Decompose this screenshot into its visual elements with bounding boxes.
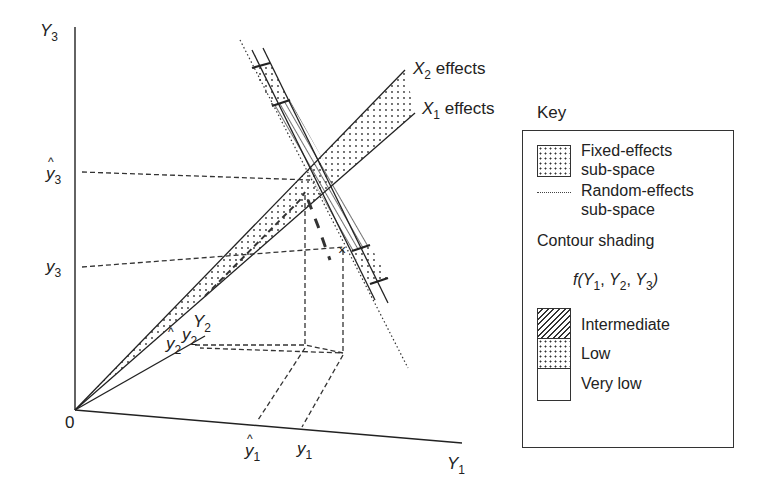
- y2-axis-label: Y2: [193, 313, 211, 334]
- fixed-effects-label: Fixed-effectssub-space: [581, 141, 672, 179]
- y1-observed-label: y1: [297, 440, 312, 461]
- random-effects-line-swatch: [537, 192, 571, 193]
- fixed-effects-swatch: [537, 145, 571, 177]
- y3-axis-label: Y3: [40, 22, 58, 43]
- low-swatch: [537, 338, 571, 370]
- y1-hat-label: y1: [245, 442, 260, 463]
- y1-axis-label: Y1: [447, 455, 465, 476]
- very-low-swatch: [537, 368, 571, 401]
- legend-box: Fixed-effectssub-space Random-effectssub…: [522, 130, 734, 448]
- y2-hat-label: y2: [166, 335, 181, 356]
- y3-observed-label: y3: [46, 258, 61, 279]
- y1-axis: [75, 410, 462, 443]
- density-function-label: f(Y1, Y2, Y3): [573, 270, 658, 296]
- x2-effects-label: X2 effects: [413, 60, 486, 81]
- key-title: Key: [537, 103, 566, 123]
- projection-lines: [82, 172, 345, 427]
- y3-hat-label: y3: [46, 165, 61, 186]
- low-label: Low: [581, 344, 610, 363]
- origin-label: 0: [65, 414, 74, 431]
- very-low-label: Very low: [581, 374, 641, 393]
- contour-shading-title: Contour shading: [537, 231, 654, 250]
- intermediate-swatch: [537, 308, 571, 340]
- intermediate-label: Intermediate: [581, 315, 670, 334]
- observed-point-marker: ×: [338, 242, 346, 258]
- random-effects-label: Random-effectssub-space: [581, 181, 694, 219]
- contour-band: [240, 40, 408, 368]
- x1-effects-label: X1 effects: [422, 100, 495, 121]
